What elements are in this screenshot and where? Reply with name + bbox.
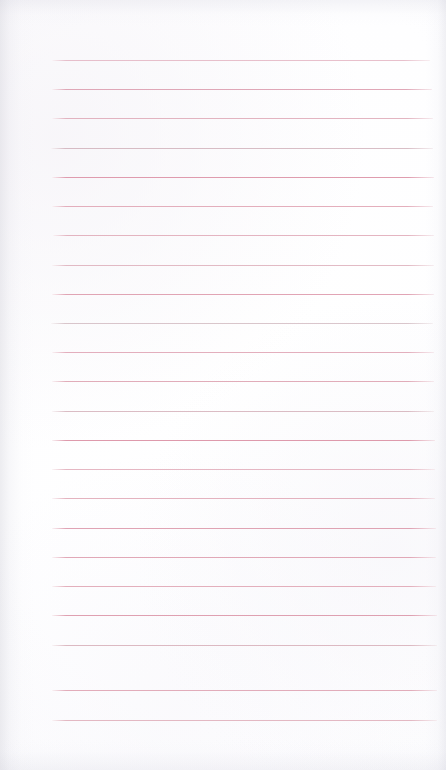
rule-line [53, 235, 434, 236]
rule-line [52, 557, 436, 558]
rule-line [52, 352, 434, 353]
rule-line [52, 294, 434, 295]
rule-line [52, 177, 434, 178]
rule-line [52, 440, 435, 441]
rule-line [52, 381, 434, 382]
rule-line [52, 645, 437, 646]
rule-line [52, 498, 435, 499]
rule-line [52, 206, 433, 207]
scanned-page-canvas [0, 0, 446, 770]
rule-line [51, 148, 433, 149]
rule-line [52, 615, 437, 616]
rule-line [52, 720, 437, 721]
rule-line [52, 690, 437, 691]
rule-line [52, 265, 434, 266]
rule-line [51, 323, 433, 324]
rule-line [52, 469, 435, 470]
rule-line [52, 528, 436, 529]
rule-line [52, 411, 434, 412]
rule-line [52, 586, 436, 587]
rule-line [52, 118, 433, 119]
rule-line [52, 89, 432, 90]
rule-line [52, 60, 430, 61]
ruled-lines-layer [0, 0, 446, 770]
